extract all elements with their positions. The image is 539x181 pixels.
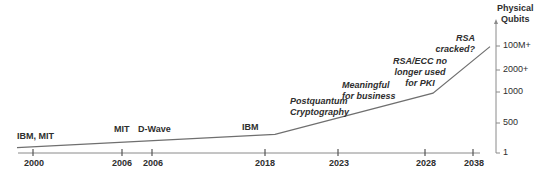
- y-tick-label: 2000+: [503, 64, 528, 74]
- y-tick-label: 100M+: [503, 40, 531, 50]
- x-tick-label: 2006: [143, 158, 163, 168]
- y-tick-label: 500: [503, 117, 518, 127]
- event-label-rsa-ecc: RSA/ECC no longer used for PKI: [393, 56, 447, 89]
- event-label-line: for business: [342, 91, 396, 102]
- x-tick-label: 2038: [464, 158, 484, 168]
- timeline-chart: [0, 0, 539, 181]
- y-tick-label: 1: [503, 147, 508, 157]
- y-tick-label: 1000: [503, 86, 523, 96]
- event-label-ibm-mit: IBM, MIT: [17, 131, 54, 142]
- event-label-rsa-cracked: RSA cracked?: [432, 33, 475, 55]
- event-label-line: for PKI: [393, 78, 447, 89]
- x-tick-label: 2006: [112, 158, 132, 168]
- y-axis-title: Physical Qubits: [497, 3, 534, 25]
- event-label-line: Meaningful: [342, 80, 396, 91]
- x-tick-label: 2018: [255, 158, 275, 168]
- event-label-line: RSA: [432, 33, 475, 44]
- event-label-line: Postquantum: [290, 96, 349, 107]
- event-label-line: RSA/ECC no: [393, 56, 447, 67]
- y-axis-title-line2: Qubits: [497, 14, 534, 25]
- event-label-meaningful: Meaningful for business: [342, 80, 396, 102]
- event-label-mit: MIT: [114, 124, 130, 135]
- x-tick-label: 2028: [416, 158, 436, 168]
- event-label-line: cracked?: [432, 44, 475, 55]
- event-label-ibm: IBM: [242, 122, 259, 133]
- event-label-line: longer used: [393, 67, 447, 78]
- x-tick-label: 2023: [329, 158, 349, 168]
- event-label-postquantum: Postquantum Cryptography: [290, 96, 349, 118]
- x-tick-label: 2000: [24, 158, 44, 168]
- y-axis-title-line1: Physical: [497, 3, 534, 14]
- event-label-d-wave: D-Wave: [138, 124, 171, 135]
- event-label-line: Cryptography: [290, 107, 349, 118]
